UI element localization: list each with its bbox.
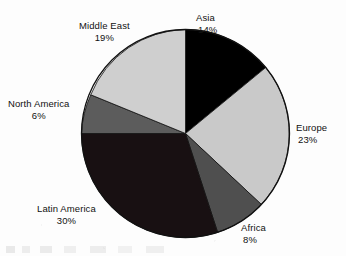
pie-label-latin-america-value: 30% xyxy=(37,215,96,227)
pie-chart-page: Asia 14% Europe 23% Africa 8% Latin Amer… xyxy=(0,0,346,256)
pie-label-europe: Europe 23% xyxy=(296,122,327,145)
pie-label-north-america-value: 6% xyxy=(8,110,70,122)
pie-label-middle-east-name: Middle East xyxy=(79,20,130,31)
pie-label-north-america-name: North America xyxy=(8,98,70,109)
scan-artifact-caption xyxy=(6,246,174,253)
pie-chart-svg xyxy=(80,28,291,239)
pie-chart xyxy=(80,28,291,239)
pie-label-latin-america: Latin America 30% xyxy=(37,203,96,226)
pie-label-asia: Asia 14% xyxy=(196,12,217,35)
pie-label-africa: Africa 8% xyxy=(241,222,266,245)
pie-label-africa-value: 8% xyxy=(241,234,266,246)
pie-label-africa-name: Africa xyxy=(241,222,266,233)
pie-label-middle-east-value: 19% xyxy=(79,32,130,44)
pie-label-europe-value: 23% xyxy=(296,134,327,146)
pie-label-asia-name: Asia xyxy=(196,12,215,23)
pie-label-europe-name: Europe xyxy=(296,122,327,133)
pie-label-north-america: North America 6% xyxy=(8,98,70,121)
pie-label-asia-value: 14% xyxy=(196,24,217,36)
pie-label-middle-east: Middle East 19% xyxy=(79,20,130,43)
pie-label-latin-america-name: Latin America xyxy=(37,203,96,214)
